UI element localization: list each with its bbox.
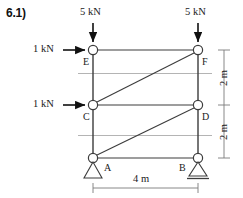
load-label-F-vertical: 5 kN: [185, 7, 206, 18]
load-label-E-horizontal: 1 kN: [33, 44, 54, 55]
load-label-C-horizontal: 1 kN: [33, 99, 54, 110]
joint-label-E: E: [83, 57, 89, 67]
support-B-roller-triangle: [189, 162, 207, 176]
joint-C: [88, 100, 97, 109]
joint-F: [193, 45, 202, 54]
load-label-E-vertical: 5 kN: [80, 7, 101, 18]
joint-label-D: D: [202, 112, 209, 122]
member-CF-diagonal: [95, 52, 196, 103]
structural-diagram-screenshot: 6.1): [0, 0, 243, 198]
joint-D: [193, 100, 202, 109]
dimension-label-lower: 2 m: [219, 124, 230, 140]
joint-label-A: A: [104, 163, 111, 173]
joint-label-B: B: [179, 163, 186, 173]
support-A-pinned-triangle: [84, 162, 102, 178]
member-AD-diagonal: [95, 107, 196, 156]
dimension-label-upper: 2 m: [219, 70, 230, 86]
joint-E: [88, 45, 97, 54]
joint-label-C: C: [83, 112, 90, 122]
joint-label-F: F: [202, 57, 208, 67]
dimension-label-span: 4 m: [133, 174, 149, 185]
